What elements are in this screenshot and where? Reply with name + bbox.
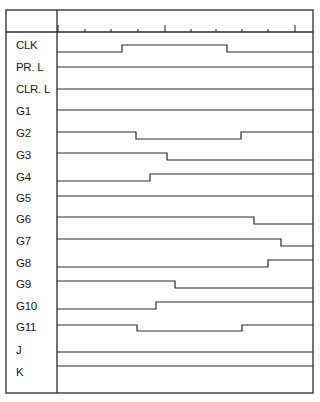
waveform-g8 — [57, 260, 313, 267]
signal-label: G2 — [16, 126, 31, 140]
signal-label: G6 — [16, 212, 31, 226]
waveform-g6 — [57, 217, 313, 224]
waveform-g4 — [57, 174, 313, 181]
signal-label: J — [16, 343, 21, 357]
signal-label: K — [16, 365, 23, 379]
signal-label: G7 — [16, 234, 31, 248]
signal-label: G8 — [16, 256, 31, 270]
waveform-g10 — [57, 302, 313, 309]
waveform-clk — [57, 45, 313, 52]
signal-label: G11 — [16, 320, 36, 334]
timing-diagram: CLKPR. LCLR. LG1G2G3G4G5G6G7G8G9G10G11JK — [0, 0, 320, 402]
waveform-g2 — [57, 132, 313, 139]
signal-label: G9 — [16, 277, 31, 291]
signal-label: G1 — [16, 104, 31, 118]
waveform-g3 — [57, 153, 313, 160]
signal-label: G3 — [16, 148, 31, 162]
waveform-g11 — [57, 325, 313, 331]
waveform-g9 — [57, 281, 313, 288]
signal-label: CLK — [16, 38, 37, 52]
waveform-g7 — [57, 239, 313, 246]
signal-label: G5 — [16, 191, 31, 205]
signal-label: PR. L — [16, 60, 43, 74]
signal-label: CLR. L — [16, 82, 50, 96]
signal-label: G4 — [16, 170, 31, 184]
signal-label: G10 — [16, 299, 37, 313]
timing-diagram-canvas — [0, 0, 320, 402]
